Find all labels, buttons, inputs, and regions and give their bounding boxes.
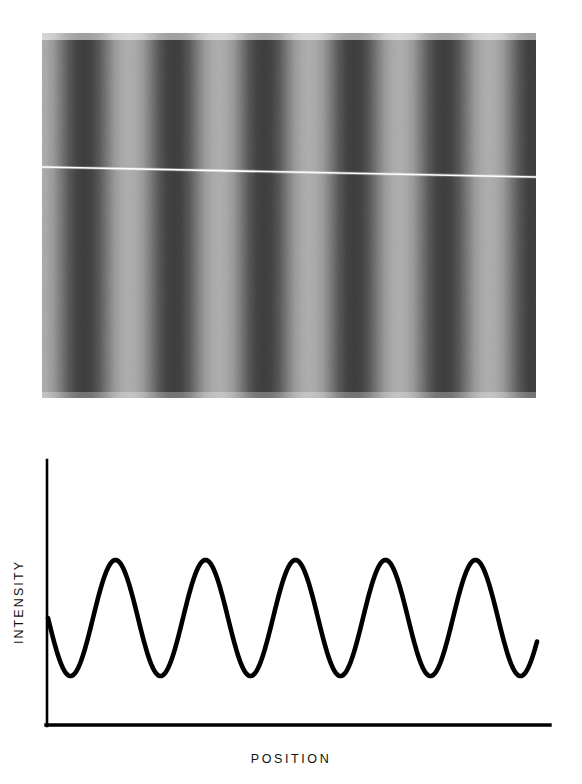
figure-root: INTENSITY POSITION (0, 0, 582, 784)
top-edge-falloff (42, 33, 536, 40)
y-axis-label: INTENSITY (12, 552, 26, 652)
x-axis-label: POSITION (0, 752, 582, 766)
intensity-plot-svg (0, 440, 582, 750)
intensity-plot (0, 440, 582, 750)
fringe-pattern-svg (42, 33, 536, 398)
interference-fringe-photograph (42, 33, 536, 398)
intensity-curve (48, 560, 537, 676)
film-grain-light (42, 33, 536, 398)
bottom-edge-falloff (42, 392, 536, 398)
